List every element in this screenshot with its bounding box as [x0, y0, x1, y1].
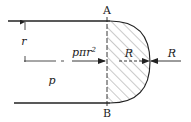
label-radius: r — [21, 35, 27, 48]
label-reaction-outer: R — [167, 47, 176, 60]
label-pressure-force: pπr2 — [72, 46, 97, 59]
label-pressure: p — [48, 74, 55, 87]
label-pressure-force-exp: 2 — [91, 46, 97, 54]
hatched-end-cap — [107, 21, 150, 103]
label-reaction-inner: R — [124, 47, 133, 60]
label-point-a: A — [102, 4, 112, 17]
label-pressure-force-base: pπr — [72, 46, 92, 59]
label-point-b: B — [103, 107, 111, 120]
pressure-vessel-diagram: A B r p pπr2 R R — [0, 0, 191, 122]
